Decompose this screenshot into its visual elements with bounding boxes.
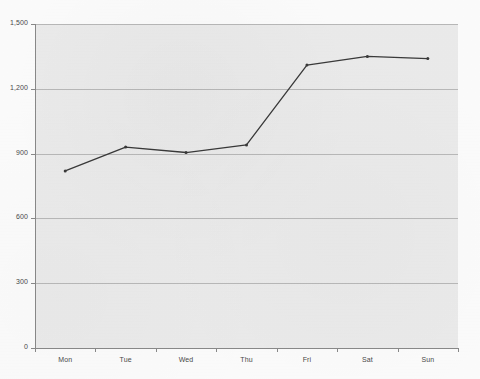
data-point-marker (366, 55, 369, 58)
series-line (65, 56, 428, 170)
data-series-group (0, 0, 480, 379)
series-markers (64, 55, 430, 172)
data-point-marker (305, 64, 308, 67)
data-point-marker (245, 143, 248, 146)
data-point-marker (124, 146, 127, 149)
data-point-marker (426, 57, 429, 60)
data-point-marker (64, 169, 67, 172)
line-chart-figure: 03006009001,2001,500 MonTueWedThuFriSatS… (0, 0, 480, 379)
data-point-marker (185, 151, 188, 154)
